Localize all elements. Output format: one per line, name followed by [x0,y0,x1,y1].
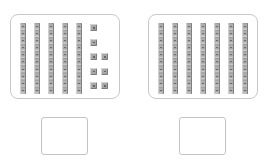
left-blocks-area [11,15,119,98]
tens-rod [20,23,26,94]
base-ten-panel-right [148,14,258,99]
tens-rod [76,23,82,94]
ones-cube [90,53,97,60]
ones-cube [90,24,97,31]
base-ten-panel-left [10,14,120,99]
ones-cube [90,82,97,89]
answer-box-left[interactable] [41,117,88,155]
tens-rod [62,23,68,94]
tens-rod [228,23,234,94]
answer-box-right[interactable] [179,117,226,155]
ones-cube [90,68,97,75]
ones-cube [101,53,108,60]
ones-cube [101,82,108,89]
tens-rod [186,23,192,94]
tens-rod [242,23,248,94]
tens-rod [200,23,206,94]
tens-rod [34,23,40,94]
ones-cube [101,68,108,75]
right-blocks-area [149,15,257,98]
tens-rod [172,23,178,94]
tens-rod [158,23,164,94]
tens-rod [48,23,54,94]
ones-cube [90,39,97,46]
tens-rod [214,23,220,94]
